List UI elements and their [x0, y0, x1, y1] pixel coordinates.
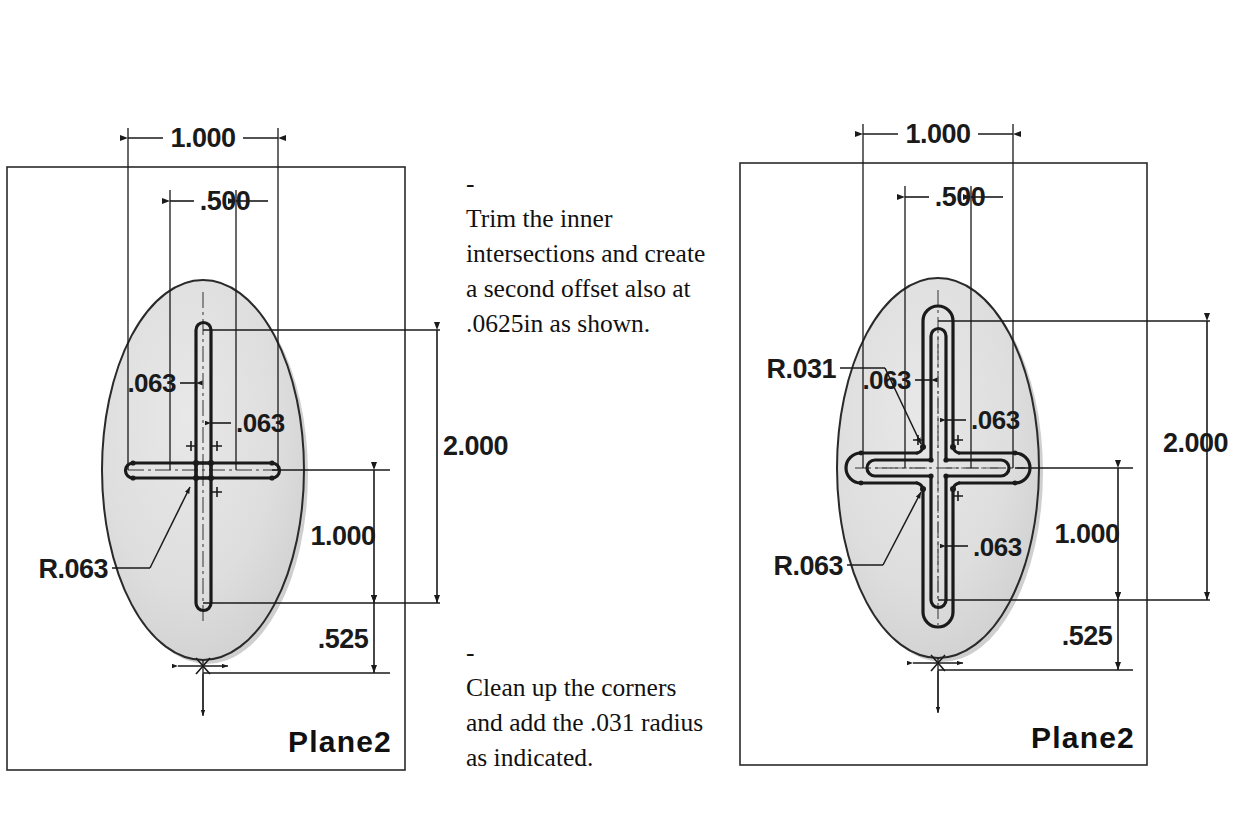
dim-width-500: .500	[905, 182, 1003, 212]
plane-label: Plane2	[1031, 721, 1135, 754]
origin-marker	[913, 655, 963, 713]
dim-slot-063-left-label: .063	[862, 365, 911, 395]
dim-width-1000: 1.000	[863, 119, 1013, 149]
dim-slot-063-left-label: .063	[127, 368, 176, 398]
dim-height-2000: 2.000	[437, 330, 508, 603]
dim-height-525-label: .525	[1062, 621, 1113, 651]
dim-width-500-label: .500	[200, 186, 251, 216]
right-view: 1.000 .500 2.000 1.000 .525	[735, 0, 1235, 800]
left-view-drawing: 1.000 .500 2.000 1.000 .525	[0, 0, 470, 800]
left-view: 1.000 .500 2.000 1.000 .525	[0, 0, 470, 800]
dim-width-1000-label: 1.000	[905, 119, 970, 149]
note-cleanup: - Clean up the corners and add the .031 …	[466, 600, 706, 775]
dim-slot-063-right-label: .063	[236, 408, 285, 438]
dim-height-1000: 1.000	[1054, 468, 1119, 600]
dim-slot-063-right-label: .063	[971, 405, 1020, 435]
note-cleanup-bullet: -	[466, 638, 475, 667]
plane-label: Plane2	[288, 725, 392, 758]
dim-height-1000-label: 1.000	[310, 521, 375, 551]
dim-width-1000-label: 1.000	[170, 123, 235, 153]
dim-slot-063-lower-label: .063	[973, 532, 1022, 562]
figure-root: 1.000 .500 2.000 1.000 .525	[0, 0, 1235, 817]
dim-height-525-label: .525	[318, 624, 369, 654]
dim-height-1000-label: 1.000	[1054, 519, 1119, 549]
callout-radius-063-label: R.063	[38, 554, 108, 584]
dim-height-1000: 1.000	[310, 470, 375, 603]
callout-radius-031-label: R.031	[766, 354, 836, 384]
note-trim-text: Trim the inner intersections and create …	[466, 204, 705, 338]
dim-height-2000-label: 2.000	[443, 431, 508, 461]
dim-width-500-label: .500	[935, 182, 986, 212]
note-trim: - Trim the inner intersections and creat…	[466, 131, 706, 341]
dim-width-1000: 1.000	[128, 123, 278, 153]
dim-height-2000: 2.000	[1163, 321, 1228, 600]
right-view-drawing: 1.000 .500 2.000 1.000 .525	[735, 0, 1235, 800]
origin-marker	[178, 658, 228, 716]
dim-height-525: .525	[1062, 600, 1118, 670]
dim-height-525: .525	[318, 603, 374, 673]
note-cleanup-text: Clean up the corners and add the .031 ra…	[466, 673, 703, 772]
dim-height-2000-label: 2.000	[1163, 428, 1228, 458]
note-trim-bullet: -	[466, 169, 475, 198]
callout-radius-063-label: R.063	[773, 551, 843, 581]
dim-width-500: .500	[170, 186, 268, 216]
